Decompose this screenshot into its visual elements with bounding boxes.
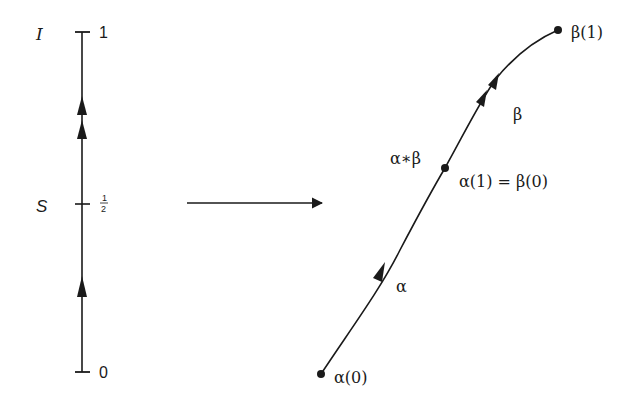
start-point-dot <box>317 370 325 378</box>
single-arrow-icon <box>77 276 87 297</box>
composite-path: α(0) α(1) = β(0) β(1) α∗β α β <box>317 23 603 387</box>
tick-mid-numerator: 1 <box>102 193 107 203</box>
end-point-dot <box>554 26 562 34</box>
unit-interval: I S 1 1 2 0 <box>35 24 108 381</box>
beta-arrow-icon-1 <box>476 90 487 107</box>
start-point-label: α(0) <box>334 368 367 387</box>
mid-point-dot <box>441 164 449 172</box>
path-composition-diagram: I S 1 1 2 0 α(0) α(1) = β(0) β(1) α∗β α … <box>0 0 635 405</box>
mid-point-label: α(1) = β(0) <box>459 172 548 191</box>
tick-bottom-label: 0 <box>99 364 108 381</box>
interval-name-label: I <box>35 24 43 44</box>
composite-label: α∗β <box>390 149 421 168</box>
double-arrow-icon-2 <box>77 120 87 139</box>
double-arrow-icon-1 <box>77 96 87 115</box>
tick-top-label: 1 <box>99 24 108 41</box>
tick-mid-denominator: 2 <box>101 204 106 214</box>
end-point-label: β(1) <box>571 23 603 42</box>
beta-label: β <box>513 105 522 124</box>
path-curve <box>321 30 558 374</box>
subset-label: S <box>36 197 48 216</box>
alpha-label: α <box>396 277 407 296</box>
